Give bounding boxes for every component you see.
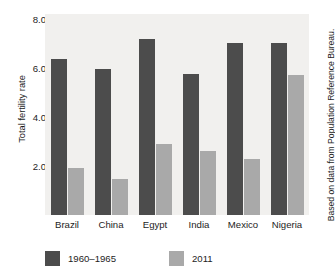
x-axis-tick-label: Brazil — [55, 219, 79, 230]
source-credit: Based on data from Population Reference … — [326, 0, 335, 264]
bar[interactable] — [244, 159, 260, 215]
bar[interactable] — [200, 151, 216, 215]
bar-group — [139, 14, 172, 215]
legend-entry-series-2[interactable]: 2011 — [169, 251, 213, 266]
bar-group — [227, 14, 260, 215]
x-axis-tick-label: India — [189, 219, 210, 230]
cut-off-caption — [14, 0, 264, 3]
x-axis-tick-label: Mexico — [228, 219, 258, 230]
legend-label: 1960–1965 — [68, 253, 116, 264]
plot-area — [45, 14, 309, 215]
x-axis-tick-labels: BrazilChinaEgyptIndiaMexicoNigeria — [45, 219, 309, 237]
legend-label: 2011 — [192, 253, 213, 264]
bar[interactable] — [112, 179, 128, 215]
bar[interactable] — [156, 144, 172, 215]
bar[interactable] — [68, 168, 84, 215]
legend-swatch-icon — [169, 251, 184, 266]
bar[interactable] — [183, 74, 199, 215]
bars-layer — [45, 14, 309, 215]
bar[interactable] — [227, 43, 243, 215]
chart-figure: Total fertility rate Based on data from … — [0, 0, 335, 275]
bar-group — [51, 14, 84, 215]
legend-swatch-icon — [45, 251, 60, 266]
bar-group — [183, 14, 216, 215]
x-axis-tick-label: Egypt — [143, 219, 168, 230]
x-axis-tick-label: Nigeria — [272, 219, 302, 230]
y-axis-tick-label: 4.0 — [6, 111, 46, 122]
bar[interactable] — [288, 75, 304, 215]
y-axis-tick-label: 6.0 — [6, 62, 46, 73]
chart-legend: 1960–1965 2011 — [45, 248, 213, 268]
y-axis-tick-label: 2.0 — [6, 160, 46, 171]
bar[interactable] — [51, 59, 67, 215]
bar-group — [95, 14, 128, 215]
x-axis-tick-label: China — [98, 219, 123, 230]
bar[interactable] — [139, 39, 155, 215]
bar[interactable] — [271, 43, 287, 215]
bar-group — [271, 14, 304, 215]
bar[interactable] — [95, 69, 111, 215]
y-axis-tick-label: 8.0 — [6, 13, 46, 24]
legend-entry-series-1[interactable]: 1960–1965 — [45, 251, 116, 266]
